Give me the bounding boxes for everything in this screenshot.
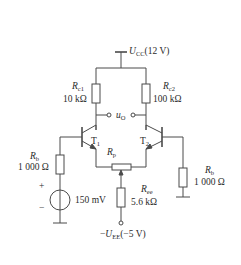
source-plus: + bbox=[39, 182, 44, 192]
circuit-diagram bbox=[0, 0, 241, 265]
rp-label: Rp bbox=[107, 148, 116, 159]
rc2-label: Rc2 bbox=[163, 82, 175, 93]
uee-terminal bbox=[119, 221, 123, 225]
rb-left-label: Rb bbox=[30, 152, 39, 163]
source-value: 150 mV bbox=[75, 196, 106, 206]
rb-left-resistor bbox=[56, 155, 64, 174]
output-terminal-left bbox=[107, 113, 111, 117]
ree-resistor bbox=[117, 188, 125, 207]
output-terminal-right bbox=[131, 113, 135, 117]
rc1-resistor bbox=[92, 84, 100, 103]
rc1-value: 10 kΩ bbox=[63, 95, 87, 105]
rc2-resistor bbox=[142, 84, 150, 103]
ree-label: Ree bbox=[141, 185, 153, 196]
wiper-arrow bbox=[119, 170, 123, 175]
source-minus: − bbox=[39, 204, 44, 214]
rb-right-label: Rb bbox=[205, 166, 214, 177]
transistor-t2 bbox=[146, 125, 183, 167]
t2-label: T2 bbox=[140, 137, 149, 148]
rp-potentiometer bbox=[112, 164, 131, 170]
rc2-value: 100 kΩ bbox=[153, 95, 181, 105]
uee-label: −UEE(−5 V) bbox=[100, 230, 146, 241]
rc1-label: Rc1 bbox=[72, 82, 84, 93]
t1-label: T1 bbox=[91, 137, 100, 148]
output-label: uO bbox=[116, 111, 125, 122]
ucc-label: UCC(12 V) bbox=[129, 47, 169, 58]
rb-right-value: 1 000 Ω bbox=[194, 178, 225, 188]
ree-value: 5.6 kΩ bbox=[131, 198, 157, 208]
rb-right-resistor bbox=[179, 168, 187, 187]
rb-left-value: 1 000 Ω bbox=[18, 163, 49, 173]
